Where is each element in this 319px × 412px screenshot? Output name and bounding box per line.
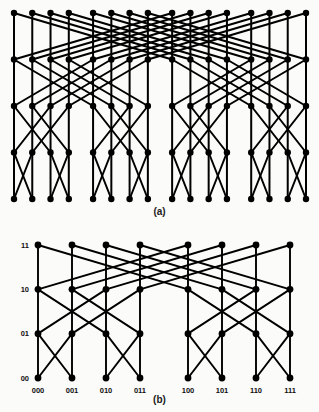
network-node [145,149,151,155]
network-node [47,56,53,62]
network-node [187,196,193,202]
network-node [219,286,226,293]
butterfly-network-a-svg [0,0,319,218]
network-node [11,196,17,202]
network-edges [14,13,306,199]
network-node [29,196,35,202]
network-node [47,103,53,109]
network-node [103,375,110,382]
network-node [126,10,132,16]
network-node [287,330,294,337]
network-node [205,149,211,155]
network-node [224,56,230,62]
network-node [219,330,226,337]
network-node [145,56,151,62]
row-label: 01 [21,329,29,338]
network-node [35,242,42,249]
network-node [248,196,254,202]
network-nodes [11,10,309,202]
network-node [66,196,72,202]
network-node [303,196,309,202]
row-label: 11 [21,241,29,250]
network-node [266,103,272,109]
network-node [137,242,144,249]
network-node [285,56,291,62]
network-node [169,103,175,109]
network-node [303,10,309,16]
network-node [35,375,42,382]
network-node [205,10,211,16]
network-node [126,56,132,62]
network-node [253,242,260,249]
network-node [11,10,17,16]
network-node [69,330,76,337]
network-node [187,103,193,109]
network-node [287,286,294,293]
network-node [285,10,291,16]
network-node [266,10,272,16]
network-node [303,103,309,109]
network-node [103,286,110,293]
network-node [303,149,309,155]
network-node [29,56,35,62]
network-node [29,103,35,109]
network-node [66,10,72,16]
network-node [205,56,211,62]
network-node [103,242,110,249]
network-node [169,196,175,202]
caption-a: (a) [0,206,319,217]
network-node [137,330,144,337]
network-node [66,149,72,155]
network-node [224,196,230,202]
row-label: 10 [21,285,29,294]
network-node [185,330,192,337]
network-node [69,242,76,249]
network-node [29,149,35,155]
network-node [224,10,230,16]
network-node [287,375,294,382]
network-node [137,375,144,382]
network-node [205,103,211,109]
network-node [248,103,254,109]
network-node [248,149,254,155]
network-node [285,103,291,109]
network-node [90,10,96,16]
network-node [35,286,42,293]
network-node [185,375,192,382]
network-node [47,196,53,202]
network-node [90,103,96,109]
network-node [145,10,151,16]
network-node [126,149,132,155]
network-node [145,103,151,109]
network-node [108,196,114,202]
network-node [11,149,17,155]
network-node [108,56,114,62]
network-node [253,286,260,293]
network-node [126,103,132,109]
network-node [103,330,110,337]
network-node [90,149,96,155]
network-node [248,56,254,62]
network-node [108,103,114,109]
network-node [90,196,96,202]
network-node [219,375,226,382]
network-node [66,56,72,62]
row-axis-labels: 00011011 [21,241,29,383]
network-node [185,242,192,249]
network-node [29,10,35,16]
network-node [66,103,72,109]
network-node [11,56,17,62]
network-node [285,149,291,155]
network-node [47,10,53,16]
network-node [169,10,175,16]
row-label: 00 [21,374,29,383]
network-node [266,196,272,202]
network-node [219,242,226,249]
network-node [205,196,211,202]
network-node [266,149,272,155]
network-node [187,56,193,62]
network-node [253,375,260,382]
network-node [137,286,144,293]
figure-root: (a) 00011011000001010011100101110111 (b) [0,0,319,412]
network-node [126,196,132,202]
